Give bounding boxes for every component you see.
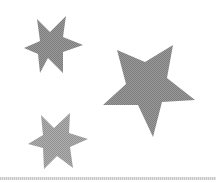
bottom-divider bbox=[0, 177, 216, 180]
five-point-star-icon bbox=[103, 45, 195, 137]
six-point-star-top-icon bbox=[24, 16, 83, 73]
six-point-star-bottom-icon bbox=[28, 113, 88, 169]
stars-illustration bbox=[0, 0, 216, 183]
